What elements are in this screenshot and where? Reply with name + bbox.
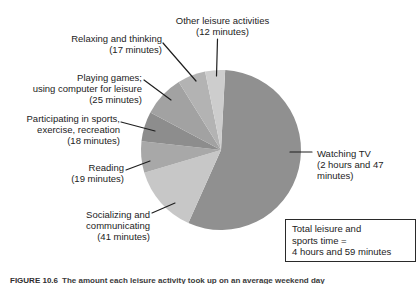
leader-line-playing-games <box>144 80 171 100</box>
label-other-leisure-activities: Other leisure activities (12 minutes) <box>160 15 285 37</box>
figure-number: FIGURE 10.6 <box>10 276 58 284</box>
total-leisure-box: Total leisure and sports time = 4 hours … <box>285 219 416 262</box>
label-watching-tv: Watching TV (2 hours and 47 minutes) <box>317 148 417 181</box>
label-relaxing-and-thinking: Relaxing and thinking (17 minutes) <box>20 33 162 55</box>
figure-caption-text: The amount each leisure activity took up… <box>62 276 325 284</box>
figure-caption: FIGURE 10.6The amount each leisure activ… <box>10 276 410 284</box>
label-reading: Reading (19 minutes) <box>20 162 124 184</box>
pie-slices <box>141 70 301 230</box>
label-socializing: Socializing and communicating (41 minute… <box>28 209 150 242</box>
label-playing-games: Playing games; using computer for leisur… <box>8 72 142 105</box>
leader-line-relaxing <box>163 43 196 81</box>
figure-page: Other leisure activities (12 minutes) Re… <box>0 0 420 284</box>
label-participating-in-sports: Participating in sports, exercise, recre… <box>0 113 120 146</box>
